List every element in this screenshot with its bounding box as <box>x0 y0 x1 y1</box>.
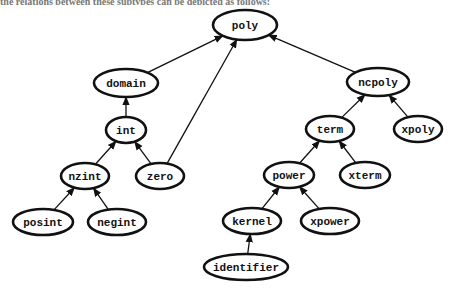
node-term: term <box>306 116 354 142</box>
node-posint: posint <box>13 209 73 235</box>
node-xterm: xterm <box>340 162 390 188</box>
node-xpoly: xpoly <box>394 116 442 142</box>
node-label: poly <box>232 20 259 32</box>
edge-kernel-to-power <box>262 187 280 209</box>
edge-nzint-to-int <box>95 141 116 164</box>
edge-zero-to-int <box>135 142 151 164</box>
node-zero: zero <box>136 163 184 189</box>
node-nzint: nzint <box>61 163 109 189</box>
edge-domain-to-poly <box>147 36 222 73</box>
node-identifier: identifier <box>204 254 288 280</box>
edge-term-to-ncpoly <box>342 95 365 118</box>
nodes-layer: polydomainintnzintzeroposintnegintncpoly… <box>13 10 442 280</box>
node-label: zero <box>147 171 174 183</box>
node-label: term <box>317 124 344 136</box>
node-xpower: xpower <box>301 208 359 234</box>
node-label: int <box>116 125 136 137</box>
node-label: xterm <box>348 170 381 182</box>
edge-power-to-term <box>300 141 320 164</box>
node-label: ncpoly <box>358 77 398 89</box>
node-label: xpoly <box>401 124 434 136</box>
node-label: posint <box>23 217 63 229</box>
edge-identifier-to-kernel <box>248 234 251 254</box>
node-label: kernel <box>232 216 272 228</box>
node-ncpoly: ncpoly <box>347 68 409 96</box>
node-label: power <box>272 170 305 182</box>
node-poly: poly <box>213 10 277 40</box>
node-label: domain <box>106 78 146 90</box>
node-domain: domain <box>94 69 158 97</box>
node-label: nzint <box>68 171 101 183</box>
edge-xterm-to-term <box>339 141 356 163</box>
node-label: identifier <box>213 262 279 274</box>
node-negint: negint <box>88 209 146 235</box>
node-power: power <box>264 162 314 188</box>
node-kernel: kernel <box>223 208 281 234</box>
node-label: negint <box>97 217 137 229</box>
edge-ncpoly-to-poly <box>269 35 356 72</box>
edge-xpower-to-power <box>300 187 320 209</box>
edge-xpoly-to-ncpoly <box>389 95 408 117</box>
edge-posint-to-nzint <box>54 188 74 210</box>
node-label: xpower <box>310 216 350 228</box>
type-hierarchy-diagram: polydomainintnzintzeroposintnegintncpoly… <box>0 0 450 293</box>
edge-negint-to-nzint <box>94 188 109 209</box>
node-int: int <box>106 117 146 143</box>
